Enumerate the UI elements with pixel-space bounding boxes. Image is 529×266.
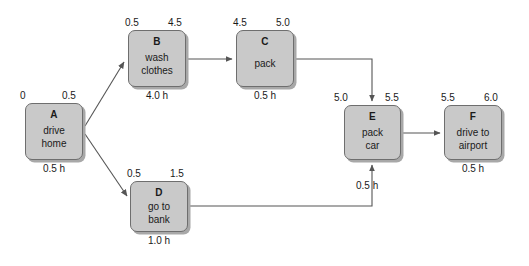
node-E-id: E	[369, 111, 376, 123]
node-C-duration: 0.5 h	[254, 90, 276, 102]
node-F-duration: 0.5 h	[462, 163, 484, 175]
node-D-id: D	[155, 187, 162, 199]
node-F-early-start: 5.5	[441, 92, 455, 104]
node-C[interactable]: C pack	[236, 30, 294, 87]
node-A-early-finish: 0.5	[62, 90, 76, 102]
node-F-early-finish: 6.0	[484, 92, 498, 104]
node-D-label: go to bank	[148, 200, 170, 226]
node-C-id: C	[261, 36, 268, 48]
node-B-duration: 4.0 h	[146, 90, 168, 102]
node-B[interactable]: B wash clothes	[128, 30, 186, 87]
node-E-label: pack car	[362, 126, 383, 152]
node-C-early-finish: 5.0	[276, 17, 290, 29]
edge-A-to-B	[85, 62, 124, 126]
node-A-duration: 0.5 h	[43, 163, 65, 175]
node-C-early-start: 4.5	[233, 17, 247, 29]
node-A-label: drive home	[41, 124, 66, 150]
node-E-early-start: 5.0	[334, 92, 348, 104]
node-B-early-finish: 4.5	[168, 17, 182, 29]
node-E-duration: 0.5 h	[356, 180, 378, 192]
node-B-id: B	[153, 36, 160, 48]
node-C-label: pack	[254, 57, 275, 70]
node-D-duration: 1.0 h	[148, 235, 170, 247]
node-F-id: F	[470, 111, 476, 123]
node-E[interactable]: E pack car	[344, 105, 401, 160]
node-A[interactable]: A drive home	[25, 103, 83, 160]
node-A-early-start: 0	[20, 90, 26, 102]
node-A-id: A	[50, 109, 57, 121]
activity-network-diagram: A drive home 0 0.5 0.5 h B wash clothes …	[0, 0, 529, 266]
node-B-early-start: 0.5	[125, 17, 139, 29]
edge-A-to-D	[85, 134, 127, 196]
node-D-early-start: 0.5	[127, 168, 141, 180]
node-D-early-finish: 1.5	[170, 168, 184, 180]
edge-D-to-E	[190, 165, 372, 206]
node-D[interactable]: D go to bank	[130, 181, 188, 232]
node-F[interactable]: F drive to airport	[444, 105, 502, 160]
node-B-label: wash clothes	[141, 51, 173, 77]
node-E-early-finish: 5.5	[385, 92, 399, 104]
node-F-label: drive to airport	[457, 126, 490, 152]
